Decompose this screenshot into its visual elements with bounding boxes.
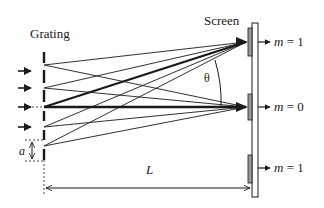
order-arrows [258,42,270,168]
center-order-arrowhead [236,102,248,112]
slit-spacing-dimension [25,140,44,161]
theta-arc [215,60,221,107]
order-label-bottom: m = 1 [274,160,304,175]
incident-light-arrows [18,71,31,127]
screen [248,23,258,197]
top-order-spot [248,28,252,56]
distance-label: L [145,162,153,177]
diagram-canvas: Grating Screen a [0,0,324,208]
rays-to-top-order [44,42,246,146]
rays-to-center-order [44,65,246,146]
center-order-spot [248,94,252,120]
slit-spacing-label: a [19,144,25,158]
top-order-arrowhead [236,37,248,47]
order-label-top: m = 1 [274,34,304,49]
theta-label: θ [204,71,210,85]
screen-label: Screen [204,13,240,28]
bottom-order-spot [248,155,252,183]
grating-label: Grating [30,26,70,41]
order-label-center: m = 0 [274,99,304,114]
